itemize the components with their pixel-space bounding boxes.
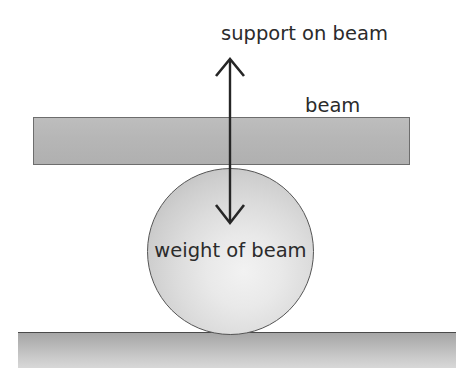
label-weight-of-beam: weight of beam <box>147 241 314 261</box>
label-support-on-beam: support on beam <box>221 24 388 44</box>
ground-surface <box>18 332 456 368</box>
arrow-head-up-icon <box>216 59 244 76</box>
label-beam: beam <box>305 96 360 116</box>
beam-rectangle <box>33 117 410 165</box>
physics-diagram-canvas: support on beam beam weight of beam <box>0 0 456 368</box>
